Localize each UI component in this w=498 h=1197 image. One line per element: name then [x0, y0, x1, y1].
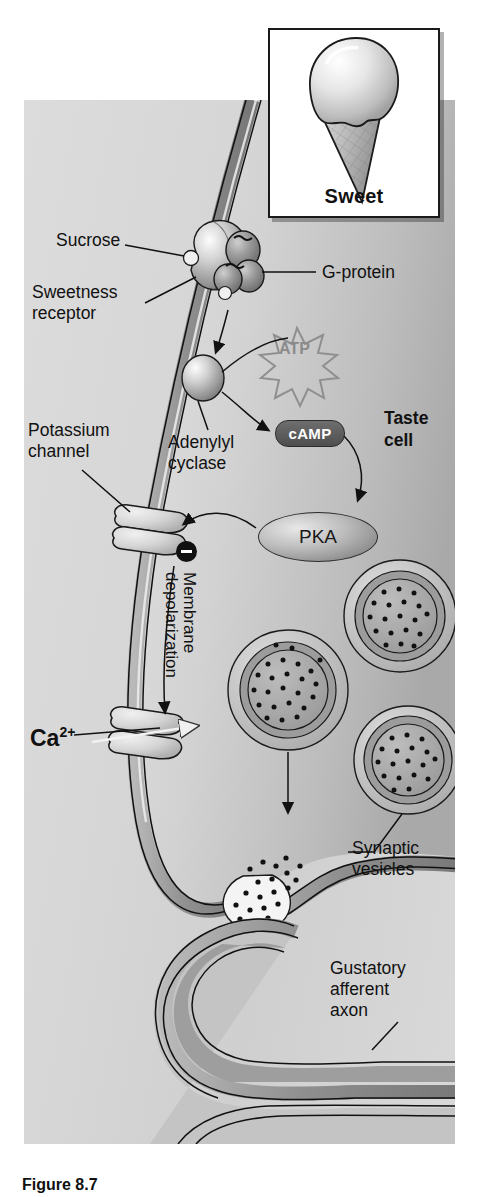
camp-badge: cAMP [275, 420, 345, 447]
label-potassium-line1: Potassium [28, 420, 110, 440]
calcium-base: Ca [30, 725, 59, 751]
atp-label: ATP [279, 340, 310, 358]
taste-transduction-figure: Sweet ATP cAMP PKA Sucrose Sweetness rec… [0, 0, 498, 1197]
label-sucrose: Sucrose [56, 230, 120, 250]
scoop-shape [310, 38, 398, 126]
label-synaptic-line1: Synaptic [352, 838, 419, 858]
label-potassium-line2: channel [28, 441, 89, 461]
label-g-protein: G-protein [322, 262, 395, 282]
label-sweetness-receptor-line2: receptor [32, 303, 96, 323]
pka-badge: PKA [258, 512, 378, 562]
g-protein-anchor [219, 287, 232, 300]
label-adenylyl-line2: cyclase [168, 453, 226, 473]
sucrose-molecule [184, 251, 199, 266]
label-calcium: Ca2+ [30, 722, 75, 748]
leader-gustatory-axon [372, 1022, 398, 1050]
label-membrane-depolarization-line2: depolarization [162, 572, 181, 678]
label-adenylyl-line1: Adenylyl [168, 432, 234, 452]
figure-caption: Figure 8.7 [22, 1176, 98, 1194]
label-gustatory-line2: afferent [330, 979, 389, 999]
leader-sucrose [125, 245, 184, 256]
adenylyl-cyclase [182, 355, 224, 401]
synaptic-vesicle [344, 560, 456, 672]
label-sweetness-receptor-line1: Sweetness [32, 282, 118, 302]
inhibition-sign-icon [176, 541, 197, 562]
synaptic-vesicle [228, 630, 348, 750]
synaptic-vesicle [354, 706, 462, 814]
inset-label: Sweet [270, 185, 438, 208]
label-synaptic-line2: vesicles [352, 859, 414, 879]
label-taste-cell-line2: cell [384, 430, 413, 450]
calcium-superscript: 2+ [59, 724, 75, 740]
leader-sweetness-receptor [145, 277, 196, 303]
sweet-stimulus-inset: Sweet [268, 28, 440, 218]
label-membrane-depolarization-line1: Membrane [180, 572, 199, 653]
label-gustatory-line3: axon [330, 1000, 368, 1020]
label-gustatory-line1: Gustatory [330, 958, 406, 978]
leader-potassium-channel [82, 470, 130, 512]
label-taste-cell-line1: Taste [384, 408, 428, 428]
